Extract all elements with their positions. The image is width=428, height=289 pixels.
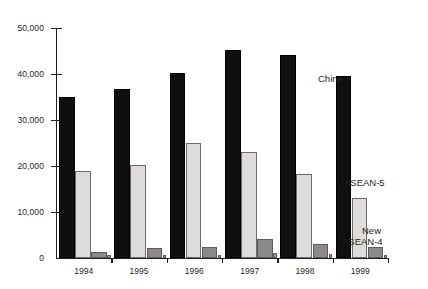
y-tick-label: 30,000 xyxy=(0,115,44,125)
x-tick-mark xyxy=(388,258,389,263)
bar-asean-5-1996 xyxy=(186,143,202,258)
series-label-china: China xyxy=(318,73,343,84)
bar-china-1994 xyxy=(59,97,75,258)
x-tick-label: 1999 xyxy=(333,266,388,276)
y-tick-label: 40,000 xyxy=(0,69,44,79)
bar-chart: 010,00020,00030,00040,00050,000 19941995… xyxy=(0,0,428,289)
y-tick-label: 0 xyxy=(0,253,44,263)
bar-asean-5-1994 xyxy=(75,171,91,258)
bar-china-1995 xyxy=(114,89,130,258)
bar-china-1999 xyxy=(336,76,352,258)
y-tick-mark xyxy=(51,74,62,75)
x-tick-mark xyxy=(222,258,223,263)
bar-asean-5-1995 xyxy=(130,165,146,258)
bar-series-4-1998 xyxy=(329,254,333,258)
bar-series-4-1999 xyxy=(384,255,388,258)
x-tick-label: 1994 xyxy=(56,266,111,276)
bar-new-asean-4-1999 xyxy=(368,247,384,259)
bar-series-4-1995 xyxy=(163,255,167,258)
bar-china-1997 xyxy=(225,50,241,258)
bar-asean-5-1998 xyxy=(296,174,312,258)
x-tick-mark xyxy=(333,258,334,263)
bar-china-1998 xyxy=(280,55,296,258)
x-tick-label: 1998 xyxy=(277,266,332,276)
x-tick-label: 1995 xyxy=(111,266,166,276)
y-tick-label: 10,000 xyxy=(0,207,44,217)
y-tick-label: 50,000 xyxy=(0,23,44,33)
bar-new-asean-4-1994 xyxy=(91,252,107,258)
bar-new-asean-4-1998 xyxy=(313,244,329,258)
bar-china-1996 xyxy=(170,73,186,258)
bar-asean-5-1997 xyxy=(241,152,257,258)
series-label-new-asean4-line2: ASEAN-4 xyxy=(342,236,383,247)
x-tick-mark xyxy=(111,258,112,263)
series-label-asean5: ASEAN-5 xyxy=(344,177,385,188)
bar-series-4-1997 xyxy=(273,253,277,258)
series-label-new-asean4-line1: New xyxy=(362,225,381,236)
x-tick-label: 1996 xyxy=(167,266,222,276)
bar-new-asean-4-1997 xyxy=(257,239,273,258)
bar-new-asean-4-1995 xyxy=(147,248,163,258)
x-tick-mark xyxy=(277,258,278,263)
x-tick-mark xyxy=(167,258,168,263)
y-tick-label: 20,000 xyxy=(0,161,44,171)
bar-new-asean-4-1996 xyxy=(202,247,218,258)
bar-series-4-1996 xyxy=(218,255,222,258)
x-tick-label: 1997 xyxy=(222,266,277,276)
y-tick-mark xyxy=(51,28,62,29)
bar-series-4-1994 xyxy=(107,255,111,258)
